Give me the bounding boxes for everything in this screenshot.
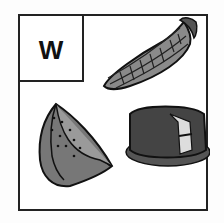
corn-icon [100, 14, 200, 94]
letter-box: W [18, 14, 84, 82]
watermelon-icon [30, 100, 120, 192]
cake-icon [120, 100, 210, 172]
letter-label: W [39, 35, 64, 66]
